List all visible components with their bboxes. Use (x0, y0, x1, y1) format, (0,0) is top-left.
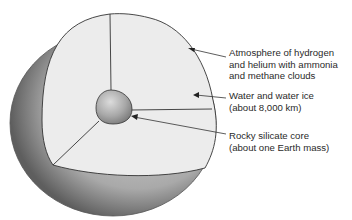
label-water-line-1: Water and water ice (229, 90, 314, 102)
label-core-line-2: (about one Earth mass) (229, 142, 329, 154)
label-atmosphere-line-2: and helium with ammonia (229, 59, 338, 71)
label-water: Water and water ice (about 8,000 km) (229, 90, 314, 113)
label-core-line-1: Rocky silicate core (229, 130, 329, 142)
label-water-line-2: (about 8,000 km) (229, 102, 314, 114)
label-atmosphere-line-3: and methane clouds (229, 70, 338, 82)
label-atmosphere-line-1: Atmosphere of hydrogen (229, 47, 338, 59)
label-core: Rocky silicate core (about one Earth mas… (229, 130, 329, 153)
label-atmosphere: Atmosphere of hydrogen and helium with a… (229, 47, 338, 82)
cutaway-face (42, 14, 216, 176)
